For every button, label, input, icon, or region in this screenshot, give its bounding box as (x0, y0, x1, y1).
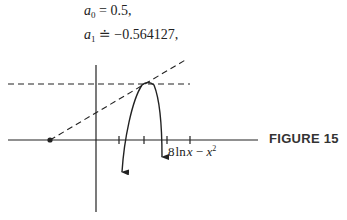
tangent-dashed-line (50, 59, 187, 140)
figure-label: FIGURE 15 (269, 131, 339, 146)
curve-label: 8 ln x − x2 (168, 144, 216, 160)
point-dot (47, 137, 52, 142)
curve-8lnx-minus-x2 (122, 83, 162, 173)
figure-diagram (0, 0, 347, 220)
